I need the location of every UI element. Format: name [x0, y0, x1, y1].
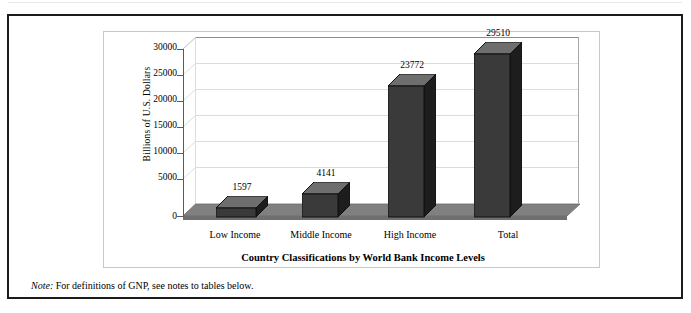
x-axis-title: Country Classifications by World Bank In…	[163, 252, 563, 263]
bar-total[interactable]	[474, 42, 522, 218]
x-category-label-total: Total	[458, 229, 558, 240]
bar-high-income[interactable]	[388, 74, 436, 218]
y-tick-mark-20000	[177, 101, 183, 102]
y-tick-mark-10000	[177, 153, 183, 154]
chart-plot-area: Billions of U.S. Dollars 30000 25000 200…	[103, 31, 600, 268]
y-tick-label-20000: 20000	[133, 95, 177, 105]
figure-note: Note: For definitions of GNP, see notes …	[31, 280, 253, 291]
y-tick-label-30000: 30000	[133, 43, 177, 53]
y-tick-mark-25000	[177, 75, 183, 76]
bar-middle-income[interactable]	[302, 182, 350, 218]
figure-page: Billions of U.S. Dollars 30000 25000 200…	[0, 0, 691, 313]
bar-value-total: 29510	[467, 28, 529, 38]
y-tick-label-0: 0	[133, 212, 177, 222]
figure-note-text: For definitions of GNP, see notes to tab…	[56, 280, 254, 291]
y-tick-label-25000: 25000	[133, 69, 177, 79]
y-axis-tick-labels: 30000 25000 20000 15000 10000 5000 0	[131, 31, 177, 231]
x-category-label-high-income: High Income	[362, 229, 458, 240]
bar-value-high-income: 23772	[381, 60, 443, 70]
y-tick-label-5000: 5000	[133, 173, 177, 183]
y-tick-label-10000: 10000	[133, 147, 177, 157]
bar-low-income[interactable]	[216, 196, 268, 218]
figure-note-label: Note:	[31, 280, 53, 291]
y-tick-mark-15000	[177, 127, 183, 128]
y-tick-mark-30000	[177, 49, 183, 50]
bar-value-middle-income: 4141	[295, 168, 357, 178]
y-tick-mark-0	[177, 216, 183, 217]
x-category-label-low-income: Low Income	[190, 229, 280, 240]
y-tick-label-15000: 15000	[133, 121, 177, 131]
chart-left-wall	[183, 37, 196, 216]
y-tick-mark-5000	[177, 179, 183, 180]
x-category-label-middle-income: Middle Income	[271, 229, 371, 240]
bar-value-low-income: 1597	[211, 182, 273, 192]
scan-artifact-line	[8, 2, 682, 3]
y-axis-line	[183, 49, 184, 217]
